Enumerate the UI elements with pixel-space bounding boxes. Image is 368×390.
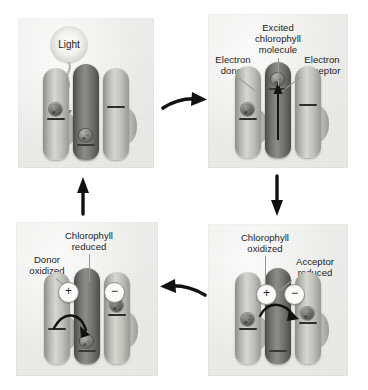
- membrane-complex: e− e−: [43, 64, 129, 160]
- acceptor-negative-charge: −: [284, 284, 305, 305]
- acceptor-negative-charge: −: [104, 282, 125, 303]
- panel-chlorophyll-reduced: Chlorophyll reduced Donor oxidized + − e…: [16, 222, 158, 376]
- donor-positive-charge: +: [58, 282, 79, 303]
- electron-donor-column: e−: [43, 68, 69, 160]
- donor-binding-slot: [239, 328, 257, 330]
- chlorophyll-reduced-label: Chlorophyll reduced: [56, 230, 122, 252]
- acceptor-binding-slot: [299, 322, 317, 324]
- electron-charge-superscript: −: [55, 106, 58, 112]
- electron-on-chlorophyll: e−: [79, 129, 92, 142]
- electron-on-donor: e−: [241, 103, 254, 116]
- membrane-complex: e− e−: [235, 268, 321, 364]
- chlorophyll-binding-slot: [269, 350, 287, 352]
- light-label: Light: [50, 26, 88, 64]
- chlorophyll-oxidized-label: Chlorophyll oxidized: [232, 232, 298, 254]
- panel-excited-chlorophyll: Excited chlorophyll molecule Electron do…: [208, 14, 348, 168]
- panel-light: Light e− e−: [18, 18, 154, 168]
- electron-on-donor: e−: [49, 103, 62, 116]
- chlorophyll-positive-charge: +: [256, 284, 277, 305]
- electron-on-acceptor: e−: [301, 307, 314, 320]
- electron-charge-superscript: −: [247, 106, 250, 112]
- electron-acceptor-column: [295, 66, 321, 158]
- donor-binding-slot: [48, 328, 66, 330]
- electron-charge-superscript: −: [116, 302, 119, 308]
- electron-acceptor-column: [103, 68, 129, 160]
- leader-excited-chlorophyll: [278, 58, 279, 86]
- electron-on-chlorophyll: e−: [80, 335, 93, 348]
- excited-chlorophyll-molecule-label: Excited chlorophyll molecule: [246, 22, 310, 55]
- acceptor-binding-slot: [299, 104, 317, 106]
- donor-binding-slot: [47, 118, 65, 120]
- acceptor-binding-slot: [107, 106, 125, 108]
- electron-charge-superscript: −: [247, 316, 250, 322]
- leader-chlorophyll-oxidized: [265, 256, 266, 284]
- leader-chlorophyll-reduced: [89, 254, 90, 282]
- donor-binding-slot: [239, 118, 257, 120]
- light-burst-icon: Light: [50, 26, 88, 64]
- panel-chlorophyll-oxidized: Chlorophyll oxidized Acceptor reduced + …: [208, 224, 348, 376]
- arrow-reduced-to-light: [77, 177, 89, 214]
- electron-donor-column: e−: [235, 272, 261, 364]
- electron-charge-superscript: −: [85, 132, 88, 138]
- electron-charge-superscript: −: [86, 338, 89, 344]
- electron-charge-superscript: −: [307, 310, 310, 316]
- acceptor-binding-slot: [108, 314, 126, 316]
- chlorophyll-binding-slot: [78, 350, 96, 352]
- chlorophyll-binding-slot: [77, 144, 95, 146]
- chlorophyll-column: e−: [74, 268, 100, 364]
- arrow-light-to-excited: [163, 92, 207, 108]
- electron-donor-column: e−: [235, 66, 261, 158]
- arrow-oxidized-to-reduced: [160, 279, 205, 295]
- electron-on-donor: e−: [241, 313, 254, 326]
- arrow-excited-to-oxidized: [271, 176, 283, 216]
- chlorophyll-column: e−: [73, 64, 99, 160]
- photosynthesis-electron-transfer-figure: Light e− e− Excited chlorophyll molecule…: [0, 0, 368, 390]
